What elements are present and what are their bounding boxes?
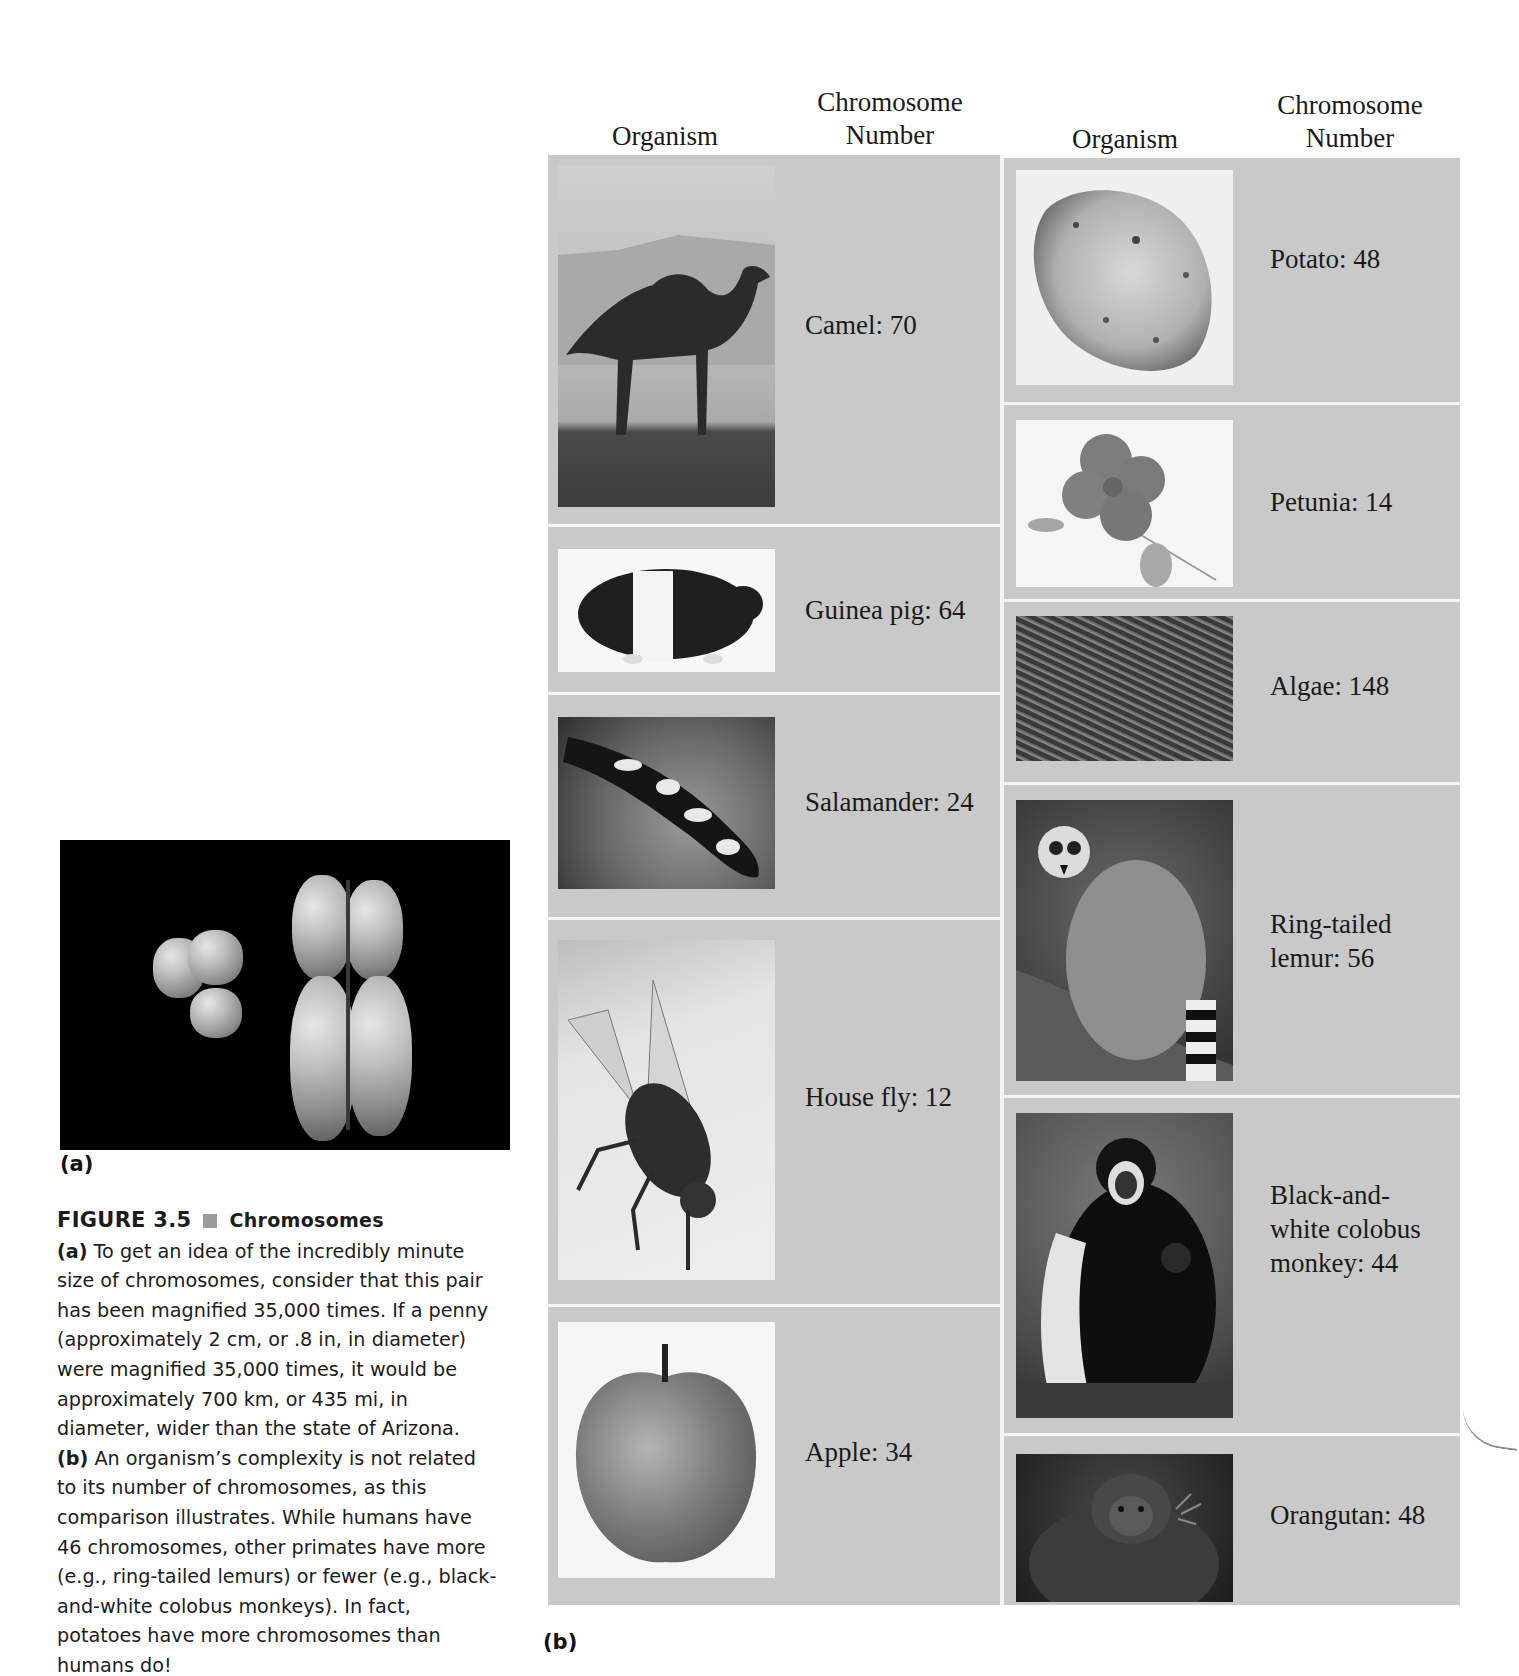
- chromosome-large: [292, 875, 352, 980]
- header-organism-left: Organism: [585, 120, 745, 153]
- lemur-photo: [1016, 800, 1233, 1081]
- organism-label: House fly: 12: [805, 1080, 952, 1114]
- square-bullet-icon: [203, 1214, 217, 1228]
- lemur-icon: [1016, 800, 1233, 1081]
- organism-label: Guinea pig: 64: [805, 593, 965, 627]
- table-row: Guinea pig: 64: [548, 527, 1000, 695]
- table-row: Salamander: 24: [548, 695, 1000, 920]
- salamander-photo: [558, 717, 775, 889]
- caption-heading: FIGURE 3.5Chromosomes: [57, 1206, 497, 1236]
- organism-table-right: Potato: 48 Petunia: 14 Algae: 148: [1004, 158, 1460, 1605]
- organism-label: Salamander: 24: [805, 785, 974, 819]
- table-row: House fly: 12: [548, 920, 1000, 1307]
- caption-a-marker: (a): [57, 1240, 88, 1263]
- potato-photo: [1016, 170, 1233, 385]
- header-organism-right: Organism: [1045, 123, 1205, 156]
- chromosome-small: [190, 988, 242, 1038]
- apple-icon: [558, 1322, 775, 1578]
- chromosome-micrograph: [60, 840, 510, 1150]
- table-row: Orangutan: 48: [1004, 1436, 1460, 1605]
- house-fly-photo: [558, 940, 775, 1280]
- algae-photo: [1016, 616, 1233, 761]
- organism-table-left: Camel: 70 Guinea pig: 64 Salamander:: [548, 155, 1000, 1605]
- table-row: Black-and- white colobus monkey: 44: [1004, 1098, 1460, 1436]
- header-chromosome-number-left: Chromosome Number: [800, 86, 980, 152]
- part-a-label: (a): [60, 1152, 93, 1176]
- petunia-photo: [1016, 420, 1233, 587]
- guinea-pig-photo: [558, 549, 775, 672]
- header-chromosome-number-right: Chromosome Number: [1260, 89, 1440, 155]
- figure-number: FIGURE 3.5: [57, 1208, 191, 1232]
- colobus-monkey-icon: [1016, 1113, 1233, 1418]
- organism-label: Black-and- white colobus monkey: 44: [1270, 1178, 1421, 1280]
- caption-b-marker: (b): [57, 1447, 88, 1470]
- chromosome-large: [345, 880, 403, 980]
- guinea-pig-icon: [558, 549, 775, 672]
- table-row: Algae: 148: [1004, 602, 1460, 785]
- figure-caption: FIGURE 3.5Chromosomes (a) To get an idea…: [57, 1206, 497, 1676]
- organism-label: Orangutan: 48: [1270, 1498, 1425, 1532]
- organism-label: Algae: 148: [1270, 669, 1389, 703]
- orangutan-icon: [1016, 1454, 1233, 1602]
- organism-label: Potato: 48: [1270, 242, 1380, 276]
- caption-a-text: To get an idea of the incredibly minute …: [57, 1240, 488, 1441]
- table-row: Petunia: 14: [1004, 405, 1460, 602]
- camel-icon: [558, 165, 775, 507]
- organism-label: Camel: 70: [805, 308, 917, 342]
- house-fly-icon: [558, 940, 775, 1280]
- organism-label: Petunia: 14: [1270, 485, 1392, 519]
- chromosome-large: [347, 976, 412, 1136]
- table-row: Camel: 70: [548, 155, 1000, 527]
- part-b-label: (b): [543, 1630, 577, 1654]
- salamander-icon: [558, 717, 775, 889]
- centromere-line: [346, 880, 350, 1130]
- figure-title: Chromosomes: [229, 1209, 383, 1231]
- table-row: Apple: 34: [548, 1307, 1000, 1605]
- page-curl-mark: [1457, 1401, 1519, 1451]
- organism-label: Apple: 34: [805, 1435, 912, 1469]
- petunia-icon: [1016, 420, 1233, 587]
- organism-label: Ring-tailed lemur: 56: [1270, 907, 1391, 975]
- camel-photo: [558, 165, 775, 507]
- chromosome-small: [188, 930, 243, 985]
- table-row: Potato: 48: [1004, 158, 1460, 405]
- caption-b-text: An organism’s complexity is not related …: [57, 1447, 496, 1676]
- apple-photo: [558, 1322, 775, 1578]
- colobus-photo: [1016, 1113, 1233, 1418]
- table-row: Ring-tailed lemur: 56: [1004, 785, 1460, 1098]
- potato-icon: [1016, 170, 1233, 385]
- orangutan-photo: [1016, 1454, 1233, 1602]
